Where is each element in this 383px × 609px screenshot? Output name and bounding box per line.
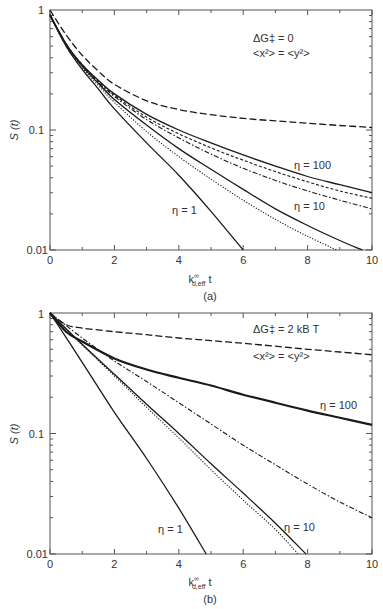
panel-b: 1 0.1 0.01 0 2 4 6 8 10 S (t) k∞d,efft (… — [8, 308, 378, 605]
curve--1-solid — [50, 16, 243, 251]
xtick-2-b: 2 — [111, 558, 117, 570]
energy-annotation-b: ΔG‡ = 2 kB T — [253, 323, 319, 335]
ytick-0.01-b: 0.01 — [27, 548, 48, 560]
xtick-8-a: 8 — [305, 254, 311, 266]
curve--10-solid — [50, 16, 362, 251]
y-axis-label-b: S (t) — [8, 423, 20, 444]
eta-1-label-a: η = 1 — [172, 204, 197, 216]
eta-10-label-b: η = 10 — [284, 521, 315, 533]
curves-a — [50, 10, 372, 250]
figure: 1 0.1 0.01 0 2 4 6 8 10 S (t) k∞d,efft (… — [0, 0, 383, 609]
ytick-0.1-b: 0.1 — [29, 428, 44, 440]
xtick-10-a: 10 — [366, 254, 378, 266]
ytick-1-b: 1 — [38, 308, 44, 320]
curve--1-solid — [50, 313, 206, 554]
xtick-6-a: 6 — [240, 254, 246, 266]
panel-label-b: (b) — [203, 593, 216, 605]
variance-annotation-b: <x²> = <y²> — [253, 350, 310, 362]
eta-100-label-a: η = 100 — [294, 159, 331, 171]
curve--10-dash-dot — [50, 16, 372, 209]
axis-ticks-a — [50, 10, 372, 250]
xtick-6-b: 6 — [240, 558, 246, 570]
xtick-2-a: 2 — [111, 254, 117, 266]
curves-b — [50, 313, 372, 554]
panel-label-a: (a) — [203, 290, 216, 302]
eta-1-label-b: η = 1 — [158, 523, 183, 535]
xtick-4-b: 4 — [176, 558, 182, 570]
xtick-10-b: 10 — [366, 558, 378, 570]
y-axis-label-a: S (t) — [8, 119, 20, 140]
panel-a: 1 0.1 0.01 0 2 4 6 8 10 S (t) k∞d,efft (… — [8, 4, 378, 302]
eta-10-label-a: η = 10 — [294, 200, 325, 212]
xtick-0-a: 0 — [47, 254, 53, 266]
curve-long-dash-reference- — [50, 10, 372, 128]
x-axis-label-b: k∞d,efft — [188, 575, 211, 590]
xtick-0-b: 0 — [47, 558, 53, 570]
curve-long-dash-reference- — [50, 313, 372, 355]
energy-annotation-a: ΔG‡ = 0 — [253, 32, 294, 44]
ytick-1-a: 1 — [38, 4, 44, 16]
xtick-4-a: 4 — [176, 254, 182, 266]
xtick-8-b: 8 — [305, 558, 311, 570]
x-axis-label-a: k∞d,efft — [188, 272, 211, 287]
eta-100-label-b: η = 100 — [320, 399, 357, 411]
ytick-0.01-a: 0.01 — [27, 244, 48, 256]
plot-frame-a — [50, 10, 372, 250]
variance-annotation-a: <x²> = <y²> — [253, 47, 310, 59]
ytick-0.1-a: 0.1 — [29, 124, 44, 136]
